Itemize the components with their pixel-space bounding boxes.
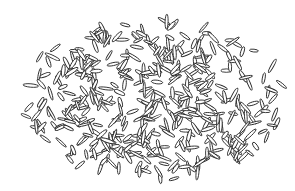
rice-grain xyxy=(55,137,67,148)
rice-grain xyxy=(267,59,277,74)
rice-grain xyxy=(40,134,52,143)
rice-grain xyxy=(204,102,217,111)
rice-grain xyxy=(244,128,257,141)
rice-grain xyxy=(50,43,61,52)
rice-grain xyxy=(207,31,220,44)
rice-grain xyxy=(21,113,31,119)
rice-grain xyxy=(268,93,278,104)
rice-grain xyxy=(37,68,42,81)
rice-grain xyxy=(216,113,219,125)
rice-grain xyxy=(239,46,245,57)
rice-grain xyxy=(276,79,288,89)
rice-grain xyxy=(187,106,197,113)
rice-grain xyxy=(130,44,144,50)
rice-grain xyxy=(261,73,266,85)
rice-grain xyxy=(264,131,270,143)
rice-grain xyxy=(47,86,54,100)
rice-grain xyxy=(126,108,139,115)
rice-grain xyxy=(90,69,102,73)
rice-grain xyxy=(23,83,39,88)
rice-grain xyxy=(98,86,114,90)
rice-grain xyxy=(249,49,258,53)
rice-grain xyxy=(160,146,170,149)
rice-grain xyxy=(36,78,47,89)
rice-grain xyxy=(159,161,170,166)
rice-grain xyxy=(209,41,217,55)
rice-grain xyxy=(74,160,85,170)
rice-grain xyxy=(200,125,215,133)
rice-grain xyxy=(169,176,180,181)
rice-grain xyxy=(252,141,260,151)
rice-grain xyxy=(122,78,127,91)
rice-grain xyxy=(258,128,268,134)
rice-grain xyxy=(151,80,163,85)
rice-grain xyxy=(138,165,142,177)
rice-grain xyxy=(195,165,199,180)
rice-grain xyxy=(63,90,76,96)
rice-grain xyxy=(84,149,88,159)
rice-grain xyxy=(195,100,205,104)
rice-grain xyxy=(236,98,241,111)
rice-grain xyxy=(24,102,34,113)
rice-grain xyxy=(174,91,184,96)
rice-grain xyxy=(156,154,171,162)
rice-grain xyxy=(92,148,98,160)
rice-grains-illustration xyxy=(0,0,295,191)
rice-grain xyxy=(36,51,44,62)
rice-grain xyxy=(151,131,161,136)
rice-grain xyxy=(63,124,74,131)
rice-grain xyxy=(120,22,130,27)
rice-grain xyxy=(179,140,186,152)
rice-grain xyxy=(261,109,271,113)
rice-grain xyxy=(57,92,65,102)
rice-grain xyxy=(206,147,209,159)
rice-grain xyxy=(143,82,145,98)
rice-grain xyxy=(179,31,191,40)
rice-grain xyxy=(247,100,259,107)
rice-grain-cluster xyxy=(21,14,288,184)
rice-grain xyxy=(215,83,228,90)
rice-grain xyxy=(228,62,232,72)
rice-grain xyxy=(105,50,113,60)
rice-grain xyxy=(92,123,102,127)
rice-grain xyxy=(117,162,120,175)
